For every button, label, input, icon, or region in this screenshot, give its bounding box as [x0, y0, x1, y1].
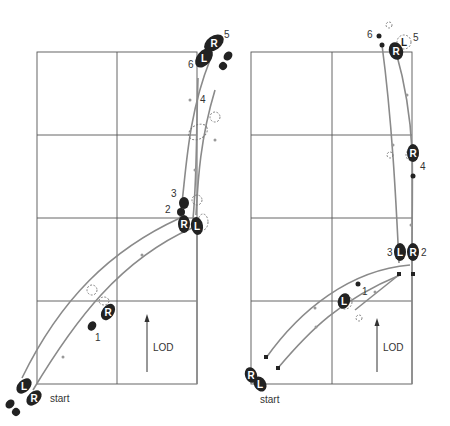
left-step-number-5: 5	[224, 29, 230, 40]
left-step2-toe	[177, 208, 185, 216]
foot-letter: R	[392, 46, 400, 57]
lod-arrowhead-icon	[145, 314, 150, 322]
left-diagram: L R start R 1 3 2 R L 4	[4, 29, 235, 418]
right-start-toe-marker	[264, 355, 268, 359]
right-step5-left-foot-ghost: L	[401, 37, 407, 48]
right-step-number-4: 4	[420, 161, 426, 172]
right-step-number-3: 3	[387, 247, 393, 258]
left-step-number-4: 4	[200, 94, 206, 105]
foot-letter: R	[104, 307, 112, 318]
right-step-number-5: 5	[413, 32, 419, 43]
foot-letter: L	[341, 296, 347, 307]
right-step6-heel-marker	[380, 43, 385, 48]
foot-letter: R	[180, 219, 188, 230]
right-step2-toe-marker	[397, 272, 401, 276]
left-step-number-3: 3	[171, 188, 177, 199]
right-start-heel-marker	[276, 366, 280, 370]
right-step4-toe-marker	[411, 174, 416, 179]
right-step2-heel-marker	[411, 272, 415, 276]
foot-letter: L	[194, 221, 200, 232]
left-step2-right-foot: R	[178, 215, 190, 233]
right-travel-paths	[266, 45, 412, 384]
right-step-number-1: 1	[362, 286, 368, 297]
left-floor-grid	[37, 52, 197, 384]
left-step-number-2: 2	[165, 204, 171, 215]
right-lod-indicator: LOD	[375, 318, 404, 372]
right-step2-right-foot: R	[407, 243, 419, 261]
left-step1-toe	[86, 320, 98, 333]
foot-letter: R	[30, 393, 38, 404]
foot-letter: R	[409, 247, 417, 258]
right-step-number-6: 6	[367, 29, 373, 40]
right-ghost-positions	[338, 22, 418, 321]
right-start-label: start	[260, 394, 280, 405]
footwork-diagrams: L R start R 1 3 2 R L 4	[0, 0, 450, 426]
foot-letter: L	[397, 247, 403, 258]
left-step1-right-foot: R	[98, 301, 118, 323]
right-diagram: R L start L 1 L 3 R 2 R	[243, 22, 427, 405]
right-lod-label: LOD	[383, 342, 404, 353]
left-step2-left-foot: L	[190, 216, 205, 236]
left-start-label: start	[50, 393, 70, 404]
foot-letter: L	[401, 37, 407, 48]
left-step-number-6: 6	[188, 59, 194, 70]
foot-letter: R	[210, 38, 218, 49]
left-step-number-1: 1	[95, 332, 101, 343]
right-step1-toe-marker	[356, 282, 361, 287]
left-start-partner-feet	[4, 398, 22, 418]
right-step1-left-foot: L	[336, 291, 353, 310]
right-step-number-2: 2	[421, 247, 427, 258]
foot-letter: L	[257, 379, 263, 390]
foot-letter: L	[201, 53, 207, 64]
foot-letter: L	[21, 381, 27, 392]
foot-letter: R	[409, 148, 417, 159]
right-step6-toe-marker	[377, 34, 382, 39]
right-step4-right-foot: R	[407, 144, 419, 162]
left-lod-indicator: LOD	[145, 314, 174, 372]
left-step3-toe	[179, 197, 189, 209]
lod-arrowhead-icon	[375, 318, 380, 326]
right-step3-left-foot: L	[394, 243, 406, 261]
left-ghost-positions	[87, 112, 220, 305]
foot-letter: R	[247, 370, 255, 381]
left-lod-label: LOD	[153, 342, 174, 353]
left-step6-partner-feet	[217, 50, 234, 72]
